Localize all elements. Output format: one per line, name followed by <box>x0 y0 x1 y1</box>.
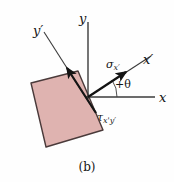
y-prime-axis-label: y′ <box>33 24 43 37</box>
figure-canvas <box>0 0 174 182</box>
x-axis-label: x <box>159 91 166 104</box>
sigma-symbol: σ <box>106 58 114 71</box>
prime-mark: ′ <box>150 52 153 67</box>
prime-mark: ′ <box>40 23 43 38</box>
figure-caption: (b) <box>0 160 174 174</box>
tau-x-prime-y-prime-label: τx'y′ <box>97 112 116 125</box>
tau-subscript-prime: ′ <box>114 116 116 125</box>
stress-transformation-figure: y y′ x′ x σx′ +θ τx'y′ (b) <box>0 0 174 182</box>
tau-subscript: x'y <box>103 116 114 125</box>
sigma-subscript-prime: ′ <box>118 63 120 72</box>
sigma-x-prime-label: σx′ <box>106 59 120 72</box>
y-axis-label: y <box>79 12 86 25</box>
theta-angle-label: +θ <box>115 79 131 90</box>
x-prime-axis-label: x′ <box>143 53 153 66</box>
